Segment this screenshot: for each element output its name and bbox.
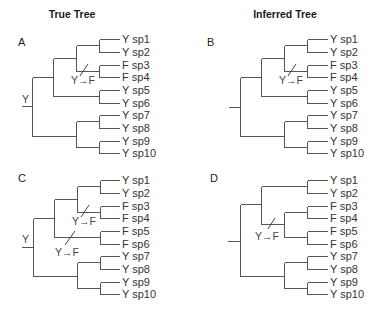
- svg-text:Y sp1: Y sp1: [122, 33, 150, 45]
- svg-text:Y sp9: Y sp9: [330, 276, 358, 288]
- leaf-labels-a: Y sp1 Y sp2 F sp3 F sp4 Y sp5 Y sp6 Y sp…: [122, 33, 156, 159]
- svg-text:F sp6: F sp6: [330, 238, 358, 250]
- svg-text:F sp5: F sp5: [122, 225, 150, 237]
- svg-text:Y sp9: Y sp9: [122, 276, 150, 288]
- svg-text:F sp6: F sp6: [122, 238, 150, 250]
- svg-text:Y sp7: Y sp7: [122, 109, 150, 121]
- svg-text:Y sp1: Y sp1: [330, 174, 358, 186]
- transition-label-d: Y→F: [255, 230, 279, 242]
- tree-panel-a: A Y Y→F Y sp1 Y sp2 F sp3 F sp4 Y sp5 Y …: [18, 33, 156, 159]
- tree-panel-b: B Y→F Y sp1 Y sp2 F sp3 F sp4 Y sp5 Y sp…: [207, 33, 364, 159]
- transition-label-a: Y→F: [71, 74, 95, 86]
- svg-text:Y sp10: Y sp10: [330, 288, 364, 300]
- svg-text:Y sp10: Y sp10: [330, 147, 364, 159]
- svg-text:F sp4: F sp4: [330, 71, 358, 83]
- svg-text:Y sp7: Y sp7: [330, 109, 358, 121]
- root-state-c: Y: [22, 233, 29, 245]
- svg-text:Y sp8: Y sp8: [122, 263, 150, 275]
- svg-text:Y sp8: Y sp8: [330, 122, 358, 134]
- svg-text:Y sp8: Y sp8: [330, 263, 358, 275]
- transition-mark-d: [268, 218, 275, 229]
- svg-text:Y sp7: Y sp7: [122, 250, 150, 262]
- svg-text:F sp3: F sp3: [330, 59, 358, 71]
- svg-text:Y sp10: Y sp10: [122, 147, 156, 159]
- svg-text:Y sp7: Y sp7: [330, 250, 358, 262]
- panel-label-c: C: [18, 172, 26, 184]
- panel-label-a: A: [18, 36, 26, 48]
- svg-text:Y sp5: Y sp5: [122, 84, 150, 96]
- tree-panel-c: C Y Y→F Y→F Y sp1 Y sp2 F sp3 F sp4 F sp…: [18, 172, 156, 300]
- panel-label-d: D: [210, 172, 218, 184]
- svg-text:Y sp5: Y sp5: [330, 84, 358, 96]
- phylogeny-figure: A Y Y→F Y sp1 Y sp2 F sp3 F sp4 Y sp5 Y …: [0, 0, 373, 313]
- svg-text:Y sp2: Y sp2: [330, 187, 358, 199]
- svg-text:Y sp6: Y sp6: [330, 97, 358, 109]
- svg-text:Y sp9: Y sp9: [122, 135, 150, 147]
- svg-text:Y sp8: Y sp8: [122, 122, 150, 134]
- svg-text:Y sp2: Y sp2: [330, 46, 358, 58]
- svg-text:F sp4: F sp4: [330, 212, 358, 224]
- svg-text:F sp4: F sp4: [122, 212, 150, 224]
- svg-text:F sp4: F sp4: [122, 71, 150, 83]
- svg-text:Y sp2: Y sp2: [122, 46, 150, 58]
- svg-text:F sp5: F sp5: [330, 225, 358, 237]
- svg-text:Y sp1: Y sp1: [330, 33, 358, 45]
- svg-text:F sp3: F sp3: [330, 200, 358, 212]
- svg-text:Y sp6: Y sp6: [122, 97, 150, 109]
- transition-label-b: Y→F: [279, 74, 303, 86]
- svg-text:Y sp1: Y sp1: [122, 174, 150, 186]
- svg-text:F sp3: F sp3: [122, 200, 150, 212]
- leaf-labels-b: Y sp1 Y sp2 F sp3 F sp4 Y sp5 Y sp6 Y sp…: [330, 33, 364, 159]
- svg-text:Y sp9: Y sp9: [330, 135, 358, 147]
- svg-text:Y sp10: Y sp10: [122, 288, 156, 300]
- tree-panel-d: D Y→F Y sp1 Y sp2 F sp3 F sp4 F sp5 F sp…: [210, 172, 364, 300]
- svg-text:F sp3: F sp3: [122, 59, 150, 71]
- svg-text:Y sp2: Y sp2: [122, 187, 150, 199]
- leaf-labels-c: Y sp1 Y sp2 F sp3 F sp4 F sp5 F sp6 Y sp…: [122, 174, 156, 300]
- transition-label-c1: Y→F: [72, 215, 96, 227]
- root-state-a: Y: [22, 93, 29, 105]
- leaf-labels-d: Y sp1 Y sp2 F sp3 F sp4 F sp5 F sp6 Y sp…: [330, 174, 364, 300]
- panel-label-b: B: [207, 36, 214, 48]
- transition-label-c2: Y→F: [55, 246, 79, 258]
